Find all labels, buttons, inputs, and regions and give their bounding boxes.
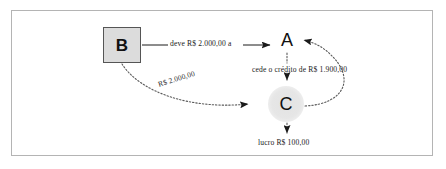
diagram-edges — [0, 0, 446, 169]
node-b[interactable]: B — [103, 27, 141, 63]
node-c-label: C — [280, 95, 293, 113]
node-a[interactable]: A — [277, 29, 297, 51]
node-a-label: A — [281, 31, 293, 49]
edge-label-lucro: lucro R$ 100,00 — [258, 138, 309, 147]
node-c[interactable]: C — [268, 86, 304, 122]
diagram-canvas: B A C deve R$ 2.000,00 a cede o crédito … — [0, 0, 446, 169]
edge-label-cede: cede o crédito de R$ 1.900,00 — [252, 65, 347, 74]
edge-label-deve: deve R$ 2.000,00 a — [170, 39, 232, 48]
node-b-label: B — [116, 37, 128, 54]
